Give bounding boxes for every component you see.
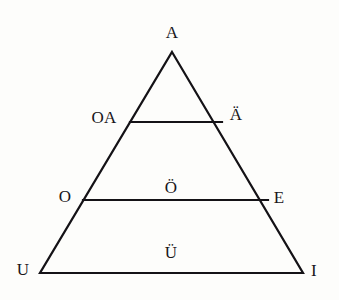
- vowel-label-oa: OA: [91, 109, 116, 126]
- vowel-label-o: O: [59, 188, 72, 205]
- vowel-label-o-umlaut: Ö: [165, 179, 178, 196]
- vowel-triangle-diagram: A OA Ä O Ö E U Ü I: [0, 0, 339, 300]
- triangle-outline: [40, 52, 303, 273]
- vowel-label-u: U: [17, 261, 30, 278]
- vowel-label-u-umlaut: Ü: [165, 244, 178, 261]
- vowel-label-a-umlaut: Ä: [230, 106, 243, 123]
- vowel-label-i: I: [311, 262, 317, 279]
- vowel-label-a: A: [166, 24, 179, 41]
- vowel-label-e: E: [274, 189, 285, 206]
- triangle-outline-group: [40, 52, 303, 273]
